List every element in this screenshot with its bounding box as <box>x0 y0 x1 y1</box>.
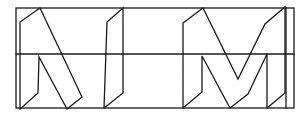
letters-group <box>20 7 285 109</box>
letter-n-outline <box>20 8 82 109</box>
letters-diagram <box>0 0 306 113</box>
letter-m-outline <box>183 7 285 108</box>
diagram-canvas <box>0 0 306 113</box>
letter-i-outline <box>104 8 123 108</box>
